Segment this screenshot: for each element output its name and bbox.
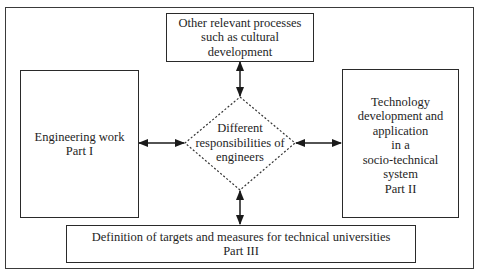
top-box-other-processes: Other relevant processes such as cultura… <box>166 13 314 62</box>
bottom-box-targets-measures: Definition of targets and measures for t… <box>66 225 416 263</box>
diamond-line: responsibilities of <box>195 136 284 151</box>
diamond-line: Different <box>217 121 263 136</box>
right-box-line: Technology <box>371 95 430 110</box>
left-box-engineering-work: Engineering work Part I <box>20 70 139 218</box>
right-box-line: application <box>373 124 429 139</box>
center-diamond-label: Different responsibilities of engineers <box>185 120 295 166</box>
right-box-line: socio-technical <box>363 153 439 168</box>
left-box-line: Engineering work <box>35 130 125 145</box>
bottom-box-line: Part III <box>223 244 259 259</box>
right-box-line: system <box>383 167 418 182</box>
right-box-line: Part II <box>385 182 417 197</box>
top-box-line: development <box>208 45 273 60</box>
bottom-box-line: Definition of targets and measures for t… <box>92 230 391 245</box>
top-box-line: Other relevant processes <box>179 16 302 31</box>
right-box-technology-development: Technology development and application i… <box>342 69 459 218</box>
diamond-line: engineers <box>216 150 264 165</box>
right-box-line: development and <box>358 109 444 124</box>
left-box-line: Part I <box>66 144 93 159</box>
top-box-line: such as cultural <box>201 30 279 45</box>
right-box-line: in a <box>391 138 409 153</box>
